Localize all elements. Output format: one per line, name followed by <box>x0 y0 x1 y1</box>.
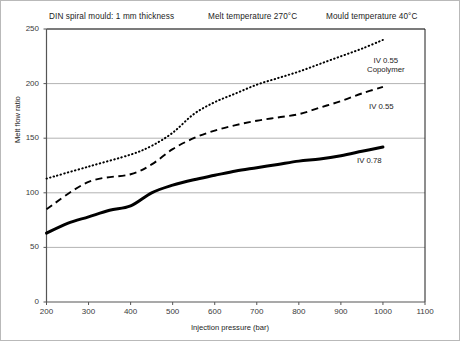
series-curve-solid <box>47 147 383 233</box>
chart-figure: DIN spiral mould: 1 mm thickness Melt te… <box>0 0 460 341</box>
series-label-copolymer-line2: Copolymer <box>367 65 405 74</box>
series-label-copolymer: IV 0.55 Copolymer <box>367 56 405 75</box>
series-label-iv055: IV 0.55 <box>369 102 394 111</box>
series-label-copolymer-line1: IV 0.55 <box>367 56 405 65</box>
series-label-iv078: IV 0.78 <box>357 156 382 165</box>
series-curve-dashed <box>47 87 383 209</box>
plot-canvas <box>1 1 460 341</box>
